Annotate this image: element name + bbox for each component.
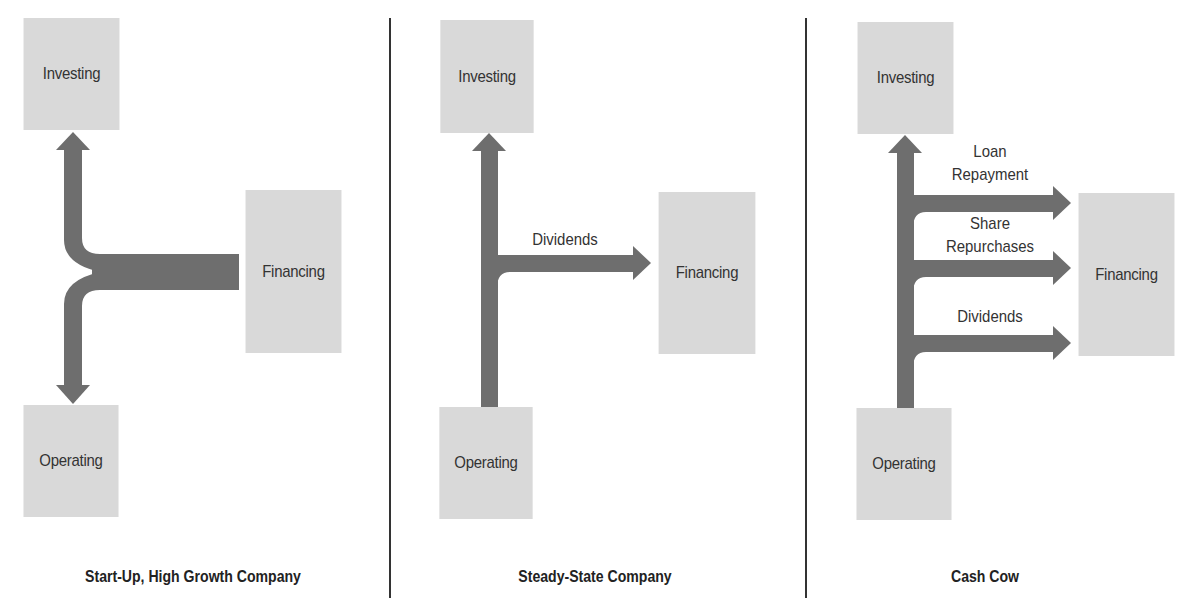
panel1-split-arrow xyxy=(56,132,239,404)
box-label: Financing xyxy=(1095,265,1157,285)
panel-divider xyxy=(805,18,807,598)
panel2-caption: Steady-State Company xyxy=(485,568,705,586)
box-label: Operating xyxy=(454,453,517,473)
panel3-dividends-label: Dividends xyxy=(942,305,1039,328)
panel1-investing-box: Investing xyxy=(24,18,120,130)
panel1-financing-box: Financing xyxy=(246,190,342,353)
panel3-operating-box: Operating xyxy=(856,408,951,520)
box-label: Investing xyxy=(877,68,935,88)
box-label: Operating xyxy=(39,451,102,471)
panel2-dividends-label: Dividends xyxy=(517,228,614,251)
arrowhead-right-icon xyxy=(1053,251,1071,285)
panel1-caption: Start-Up, High Growth Company xyxy=(41,568,345,586)
panel3-loan-repayment-label: Loan Repayment xyxy=(942,140,1039,186)
panel-divider xyxy=(389,18,391,598)
panel2-investing-box: Investing xyxy=(440,20,533,133)
arrowhead-up-icon xyxy=(472,133,506,151)
panel2-operating-box: Operating xyxy=(439,407,532,519)
panel3-financing-box: Financing xyxy=(1079,193,1175,356)
cash-flow-diagram: Investing Financing Operating Start-Up, … xyxy=(0,0,1190,612)
arrowhead-right-icon xyxy=(1053,186,1071,220)
panel3-caption: Cash Cow xyxy=(910,568,1060,586)
arrowhead-right-icon xyxy=(1053,326,1071,360)
box-label: Financing xyxy=(676,263,738,283)
label-line: Loan xyxy=(942,140,1039,163)
box-label: Operating xyxy=(872,454,935,474)
panel3-investing-box: Investing xyxy=(858,22,954,134)
box-label: Financing xyxy=(262,262,324,282)
panel1-operating-box: Operating xyxy=(23,405,118,517)
panel2-arrows xyxy=(472,133,651,408)
arrowhead-right-icon xyxy=(633,246,651,280)
box-label: Investing xyxy=(458,67,516,87)
arrowhead-down-icon xyxy=(56,385,90,404)
label-line: Share xyxy=(937,212,1043,235)
label-line: Repayment xyxy=(942,163,1039,186)
panel2-financing-box: Financing xyxy=(659,192,756,354)
box-label: Investing xyxy=(43,64,101,84)
label-line: Repurchases xyxy=(937,235,1043,258)
panel3-share-repurchases-label: Share Repurchases xyxy=(937,212,1043,258)
arrowhead-up-icon xyxy=(888,135,922,153)
arrowhead-up-icon xyxy=(56,132,90,150)
